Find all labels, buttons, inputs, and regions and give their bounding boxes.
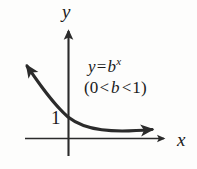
domain-less-than-first: < xyxy=(98,78,110,97)
exponential-curve xyxy=(27,66,152,131)
domain-upper-bound: 1 xyxy=(132,78,141,97)
y-axis-label: y xyxy=(62,2,70,21)
y-intercept-tick-label: 1 xyxy=(51,108,61,127)
equation-exponent-term: x xyxy=(116,55,121,67)
domain-close-paren: ) xyxy=(141,78,147,97)
equation-annotation: y=bx xyxy=(88,56,121,75)
equation-base-term: b xyxy=(108,57,117,76)
x-axis-label: x xyxy=(177,130,185,149)
domain-annotation: (0<b<1) xyxy=(84,79,147,96)
domain-base-variable: b xyxy=(110,78,121,97)
exponential-decay-figure: y x 1 y=bx (0<b<1) xyxy=(0,0,197,169)
equation-y-term: y xyxy=(88,57,96,76)
domain-less-than-second: < xyxy=(121,78,133,97)
equation-equals-sign: = xyxy=(96,57,108,76)
